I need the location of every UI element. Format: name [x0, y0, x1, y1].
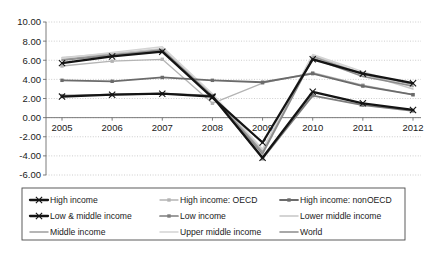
series-marker: [161, 58, 164, 61]
y-axis-tick-label: 2.00: [23, 93, 42, 104]
series-marker: [311, 72, 314, 75]
legend-label: High income: OECD: [180, 195, 257, 205]
series-upper-middle-income: [62, 47, 413, 149]
y-axis-tick-label: 0.00: [23, 112, 42, 123]
legend-label: High income: [50, 195, 98, 205]
legend-label: Middle income: [50, 227, 106, 237]
y-axis-tick-label: -4.00: [19, 150, 41, 161]
series-marker: [261, 81, 264, 84]
x-axis-tick-label: 2012: [402, 122, 423, 133]
series-marker: [411, 93, 414, 96]
y-axis-tick-label: 10.00: [17, 16, 41, 27]
legend-label: Lower middle income: [300, 211, 381, 221]
x-axis-tick-label: 2007: [152, 122, 173, 133]
series-marker: [211, 79, 214, 82]
x-axis-tick-label: 2011: [353, 122, 373, 133]
series-marker: [60, 79, 63, 82]
y-axis-tick-label: 4.00: [23, 74, 42, 85]
y-axis-tick-label: 6.00: [23, 55, 42, 66]
series-lower-middle-income: [62, 49, 413, 150]
series-marker: [110, 60, 113, 63]
legend-label: High income: nonOECD: [300, 195, 392, 205]
series-marker: [110, 80, 113, 83]
y-axis-tick-label: 8.00: [23, 36, 42, 47]
x-axis-tick-label: 2005: [51, 122, 72, 133]
series-line: [62, 49, 413, 150]
legend-swatch-marker: [287, 198, 290, 201]
legend-swatch-marker: [167, 198, 170, 201]
y-axis-tick-label: -2.00: [19, 131, 41, 142]
legend-label: Upper middle income: [180, 227, 261, 237]
x-axis-tick-label: 2008: [202, 122, 223, 133]
series-line: [62, 47, 413, 149]
legend-label: Low & middle income: [50, 211, 132, 221]
series-marker: [211, 102, 214, 105]
legend-swatch-marker: [167, 214, 170, 217]
x-axis-tick-label: 2010: [302, 122, 323, 133]
chart-figure: 10.008.006.004.002.000.00-2.00-4.00-6.00…: [0, 0, 429, 256]
series-marker: [161, 76, 164, 79]
legend-label: World: [300, 227, 323, 237]
series-marker: [361, 84, 364, 87]
x-axis-tick-label: 2006: [102, 122, 123, 133]
chart-canvas: 10.008.006.004.002.000.00-2.00-4.00-6.00…: [0, 0, 429, 256]
y-axis-tick-label: -6.00: [19, 169, 41, 180]
legend-label: Low income: [180, 211, 226, 221]
